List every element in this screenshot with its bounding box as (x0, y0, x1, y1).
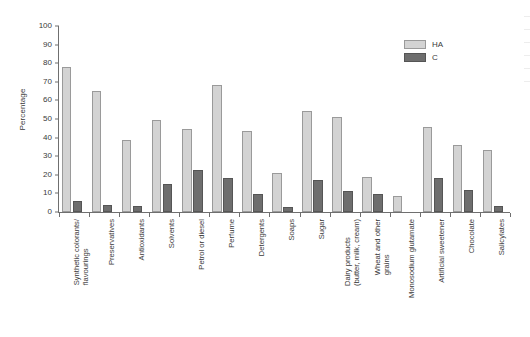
bar-ha-5 (212, 85, 222, 212)
page-edge-artifact (524, 16, 530, 84)
bar-c-9 (343, 191, 353, 212)
x-tick-mark (360, 213, 361, 217)
y-tick-label: 20 (22, 171, 52, 179)
bar-ha-11 (393, 196, 403, 212)
bar-ha-7 (272, 173, 282, 212)
bar-c-6 (253, 194, 263, 212)
legend-label-ha: HA (432, 40, 443, 49)
bar-c-10 (373, 194, 383, 212)
bar-c-8 (313, 180, 323, 212)
x-axis-label: Salicylates (498, 219, 507, 255)
x-tick-mark (330, 213, 331, 217)
x-axis-label: Soaps (288, 219, 297, 241)
x-tick-mark (89, 213, 90, 217)
x-tick-mark (420, 213, 421, 217)
x-tick-mark (480, 213, 481, 217)
x-tick-mark (269, 213, 270, 217)
legend-item-c: C (404, 52, 443, 63)
y-axis-title: Percentage (18, 55, 27, 165)
bar-ha-9 (332, 117, 342, 212)
x-axis-label: Petrol or diesel (198, 219, 207, 270)
x-axis-label: Monosodium glutamate (408, 219, 417, 298)
legend-swatch-c (404, 53, 426, 62)
bar-ha-2 (122, 140, 132, 212)
bar-c-7 (283, 207, 293, 212)
x-axis-label: Perfume (228, 219, 237, 248)
x-tick-mark (239, 213, 240, 217)
bar-c-5 (223, 178, 233, 212)
y-tick-label: 80 (22, 59, 52, 67)
x-axis-label: Detergents (258, 219, 267, 256)
bar-c-2 (133, 206, 143, 212)
y-tick-label: 50 (22, 115, 52, 123)
bar-c-0 (73, 201, 83, 212)
bar-ha-13 (453, 145, 463, 212)
bar-c-13 (464, 190, 474, 212)
y-tick-label: 30 (22, 152, 52, 160)
x-axis-label: Dairy products(butter, milk, cream) (344, 219, 361, 286)
x-axis-label: Wheat and othergrains (374, 219, 391, 275)
x-tick-mark (450, 213, 451, 217)
x-axis-line (58, 212, 510, 213)
x-tick-mark (510, 213, 511, 217)
x-axis-label: Artificial sweetener (438, 219, 447, 283)
y-tick-label: 100 (22, 22, 52, 30)
x-axis-label: Solvents (168, 219, 177, 248)
legend-item-ha: HA (404, 39, 443, 50)
chart-legend: HA C (404, 39, 443, 65)
bar-c-14 (494, 206, 504, 213)
x-tick-mark (209, 213, 210, 217)
bar-c-1 (103, 205, 113, 212)
bar-ha-12 (423, 127, 433, 212)
bar-ha-0 (62, 67, 72, 212)
x-axis-label: Preservatives (108, 219, 117, 265)
legend-label-c: C (432, 53, 438, 62)
bar-c-3 (163, 184, 173, 212)
y-tick-label: 40 (22, 134, 52, 142)
y-tick-label: 90 (22, 41, 52, 49)
y-tick-label: 0 (22, 208, 52, 216)
x-tick-mark (390, 213, 391, 217)
bar-ha-4 (182, 129, 192, 212)
x-tick-mark (179, 213, 180, 217)
bar-ha-3 (152, 120, 162, 212)
bar-ha-14 (483, 150, 493, 212)
y-tick-label: 70 (22, 78, 52, 86)
bar-ha-6 (242, 131, 252, 212)
bar-ha-8 (302, 111, 312, 212)
bar-ha-10 (362, 177, 372, 212)
bar-ha-1 (92, 91, 102, 212)
x-tick-mark (59, 213, 60, 217)
y-tick-label: 10 (22, 189, 52, 197)
x-tick-mark (149, 213, 150, 217)
x-axis-label: Antioxidants (138, 219, 147, 260)
bar-chart: Percentage 1009080706050403020100 Synthe… (0, 0, 530, 337)
bar-c-4 (193, 170, 203, 212)
x-axis-label: Synthetic colorants/flavourings (73, 219, 90, 285)
x-axis-label: Sugar (318, 219, 327, 239)
x-axis-label: Chocolate (468, 219, 477, 253)
x-tick-mark (300, 213, 301, 217)
legend-swatch-ha (404, 40, 426, 49)
x-tick-mark (119, 213, 120, 217)
bar-c-12 (434, 178, 444, 212)
y-tick-label: 60 (22, 96, 52, 104)
